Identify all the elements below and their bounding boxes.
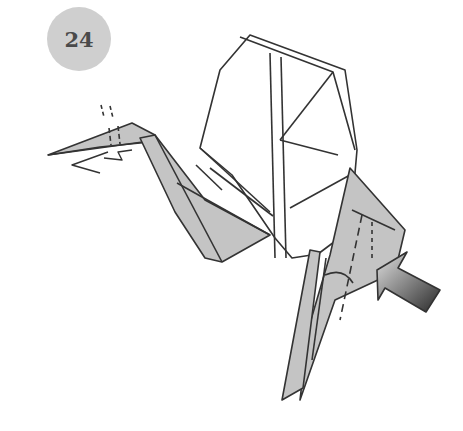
head-flap xyxy=(48,105,155,155)
origami-diagram xyxy=(0,0,463,431)
pleat-arrow xyxy=(72,150,132,173)
